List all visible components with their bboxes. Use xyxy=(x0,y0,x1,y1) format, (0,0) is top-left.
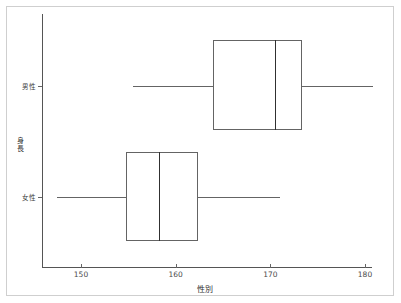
x-tick-label: 150 xyxy=(74,270,88,279)
x-axis-title: 性別 xyxy=(197,283,213,294)
x-tick-label: 170 xyxy=(263,270,277,279)
median-line xyxy=(275,40,276,130)
y-tick-mark xyxy=(38,86,42,87)
x-tick-mark xyxy=(176,264,177,268)
whisker-high xyxy=(198,197,279,198)
x-tick-mark xyxy=(365,264,366,268)
x-tick-mark xyxy=(270,264,271,268)
whisker-high xyxy=(302,86,373,87)
y-tick-label-male: 男性 xyxy=(22,81,36,91)
whisker-low xyxy=(57,197,126,198)
y-tick-mark xyxy=(38,197,42,198)
boxplot-chart: 150160170180 男性女性 性別 身長 xyxy=(0,0,401,303)
whisker-low xyxy=(133,86,213,87)
y-axis-line xyxy=(42,14,43,268)
x-tick-label: 180 xyxy=(358,270,372,279)
y-axis-title: 身長 xyxy=(15,137,25,153)
x-tick-mark xyxy=(81,264,82,268)
median-line xyxy=(159,152,160,241)
y-tick-label-female: 女性 xyxy=(22,192,36,202)
x-axis-line xyxy=(42,267,372,268)
box-male xyxy=(213,40,302,130)
box-female xyxy=(126,152,198,241)
x-tick-label: 160 xyxy=(168,270,182,279)
